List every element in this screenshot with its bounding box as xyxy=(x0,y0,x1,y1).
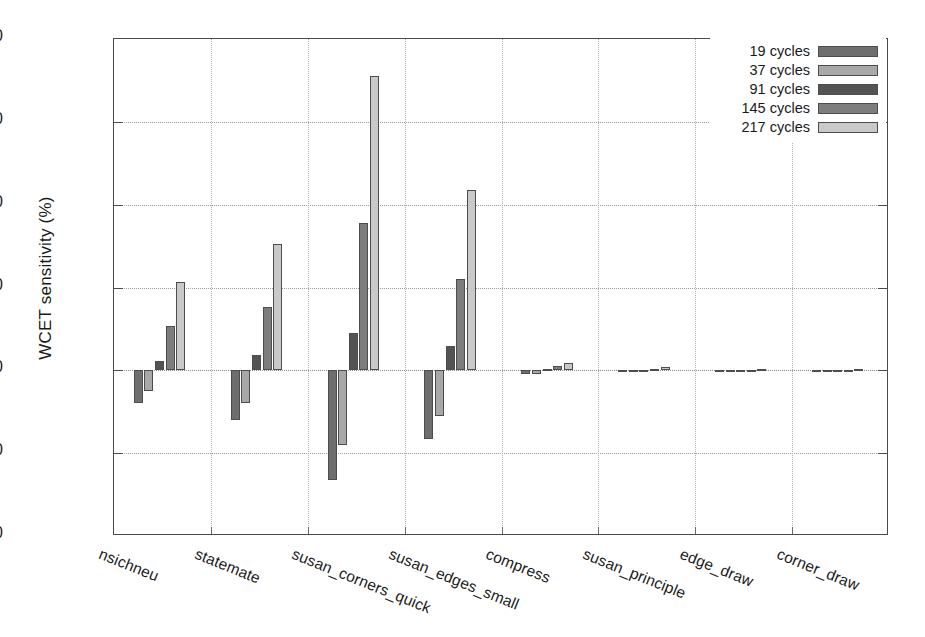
y-axis-tick-label: 60 xyxy=(0,110,3,128)
gridline-horizontal xyxy=(114,288,887,289)
legend-entry: 37 cycles xyxy=(718,61,878,79)
bar xyxy=(726,370,735,372)
x-axis-label-susan_corners_quick: susan_corners_quick xyxy=(290,545,434,617)
legend-swatch xyxy=(818,65,878,76)
bar xyxy=(134,370,143,403)
bar xyxy=(521,370,530,374)
legend-swatch xyxy=(818,103,878,114)
x-axis-tick xyxy=(211,527,212,534)
bar xyxy=(823,370,832,372)
gridline-horizontal xyxy=(114,453,887,454)
x-axis-label-compress: compress xyxy=(483,545,553,587)
gridline-vertical xyxy=(211,39,212,534)
bar xyxy=(639,370,648,372)
y-axis-tick xyxy=(114,370,123,371)
legend-swatch xyxy=(818,84,878,95)
legend-swatch xyxy=(818,122,878,133)
bar xyxy=(446,346,455,370)
gridline-vertical xyxy=(308,39,309,534)
bar xyxy=(553,366,562,370)
x-axis-label-susan_edges_small: susan_edges_small xyxy=(386,545,521,614)
legend-label: 145 cycles xyxy=(741,100,810,116)
bar xyxy=(359,223,368,370)
y-axis-tick-label: -20 xyxy=(0,441,3,459)
x-axis-tick xyxy=(308,527,309,534)
y-axis-title: WCET sensitivity (%) xyxy=(36,148,56,408)
wcet-sensitivity-chart: WCET sensitivity (%) nsichneustatematesu… xyxy=(0,0,925,637)
x-axis-label-corner_draw: corner_draw xyxy=(774,545,862,594)
bar xyxy=(543,369,552,371)
bar xyxy=(144,370,153,391)
chart-legend: 19 cycles37 cycles91 cycles145 cycles217… xyxy=(710,36,886,142)
y-axis-tick-label: 80 xyxy=(0,27,3,45)
bar xyxy=(844,370,853,372)
bar xyxy=(273,244,282,370)
bar xyxy=(252,355,261,371)
y-axis-tick xyxy=(114,205,123,206)
bar xyxy=(650,369,659,371)
bar xyxy=(812,370,821,372)
x-axis-tick xyxy=(695,527,696,534)
x-axis-tick xyxy=(405,527,406,534)
y-axis-tick xyxy=(114,288,123,289)
bar xyxy=(532,370,541,373)
bar xyxy=(349,333,358,370)
y-axis-tick xyxy=(114,122,123,123)
bar xyxy=(715,370,724,372)
x-axis-label-susan_principle: susan_principle xyxy=(580,545,688,603)
bar xyxy=(338,370,347,445)
bar xyxy=(263,307,272,370)
bar xyxy=(435,370,444,416)
y-axis-tick-label: 40 xyxy=(0,193,3,211)
legend-entry: 217 cycles xyxy=(718,118,878,136)
legend-label: 19 cycles xyxy=(750,43,810,59)
bar xyxy=(467,190,476,370)
gridline-vertical xyxy=(502,39,503,534)
y-axis-tick-label: 20 xyxy=(0,276,3,294)
legend-entry: 19 cycles xyxy=(718,42,878,60)
bar xyxy=(736,370,745,372)
x-axis-tick xyxy=(792,527,793,534)
legend-entry: 91 cycles xyxy=(718,80,878,98)
bar xyxy=(176,282,185,370)
x-axis-label-edge_draw: edge_draw xyxy=(677,545,756,591)
y-axis-tick xyxy=(878,288,887,289)
legend-entry: 145 cycles xyxy=(718,99,878,117)
y-axis-tick xyxy=(878,205,887,206)
gridline-vertical xyxy=(598,39,599,534)
bar xyxy=(231,370,240,420)
bar xyxy=(166,326,175,371)
gridline-vertical xyxy=(695,39,696,534)
y-axis-tick-label: -40 xyxy=(0,524,3,542)
x-axis-label-statemate: statemate xyxy=(193,545,264,588)
bar xyxy=(661,367,670,370)
x-axis-tick xyxy=(502,527,503,534)
bar xyxy=(747,370,756,372)
bar xyxy=(833,370,842,372)
y-axis-tick xyxy=(114,453,123,454)
bar xyxy=(757,369,766,371)
legend-label: 91 cycles xyxy=(750,81,810,97)
x-axis-label-nsichneu: nsichneu xyxy=(96,545,161,585)
gridline-vertical xyxy=(405,39,406,534)
x-axis-tick xyxy=(598,527,599,534)
legend-swatch xyxy=(818,46,878,57)
y-axis-tick xyxy=(878,453,887,454)
y-axis-tick xyxy=(878,370,887,371)
bar xyxy=(155,361,164,370)
bar xyxy=(456,279,465,370)
gridline-horizontal xyxy=(114,205,887,206)
legend-label: 37 cycles xyxy=(750,62,810,78)
bar xyxy=(241,370,250,403)
bar xyxy=(328,370,337,480)
bar xyxy=(564,363,573,370)
bar xyxy=(370,76,379,370)
y-axis-tick-label: 0 xyxy=(0,358,3,376)
bar xyxy=(424,370,433,438)
bar xyxy=(854,369,863,371)
bar xyxy=(618,370,627,372)
legend-label: 217 cycles xyxy=(741,119,810,135)
bar xyxy=(629,370,638,372)
